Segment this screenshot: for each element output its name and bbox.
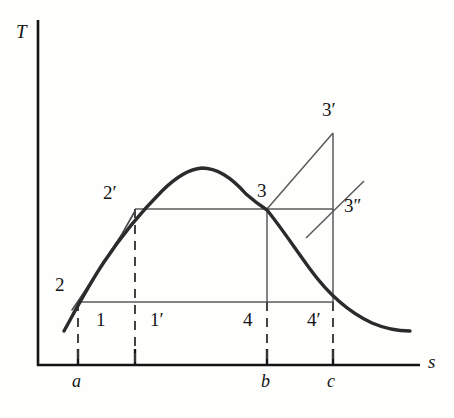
state-point-label-2-prime: 2′ xyxy=(103,183,117,202)
state-point-label-3-prime: 3′ xyxy=(322,100,336,119)
state-point-label-3-double-prime: 3″ xyxy=(344,196,361,215)
state-point-label-1: 1 xyxy=(96,310,106,329)
state-point-label-3: 3 xyxy=(257,181,267,200)
state-point-label-2: 2 xyxy=(55,275,65,294)
construction-lines-group xyxy=(78,133,364,302)
tick-label-c: c xyxy=(327,372,335,390)
segment-3-to-3prime xyxy=(267,133,333,209)
dashed-projection-lines xyxy=(78,209,333,364)
state-point-label-1-prime: 1′ xyxy=(150,310,164,329)
axes-group xyxy=(37,20,420,366)
state-point-label-4-prime: 4′ xyxy=(307,310,321,329)
state-point-label-4: 4 xyxy=(243,310,253,329)
tick-label-b: b xyxy=(261,372,270,390)
x-axis-label: s xyxy=(428,352,435,371)
ts-diagram-figure: T s a b c 1 1′ 2 2′ 3 3′ 3″ 4 4′ xyxy=(0,0,454,418)
y-axis-label: T xyxy=(16,22,27,41)
x-axis-ticks xyxy=(78,349,333,365)
tick-label-a: a xyxy=(72,372,81,390)
diagram-canvas xyxy=(0,0,454,418)
